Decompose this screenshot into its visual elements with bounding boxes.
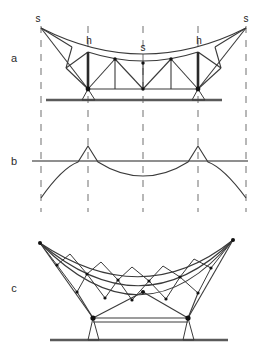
panel-a-structure: s h s h s [36, 13, 249, 100]
web-l-6 [132, 281, 149, 300]
label-anchor-left: s [36, 13, 41, 24]
leg-right-outer [188, 240, 233, 318]
node-c-u3 [116, 278, 119, 281]
backstay-left-strut-b [66, 52, 88, 68]
backstay-left-strut-c [66, 68, 88, 89]
backstay-left-lower [41, 28, 88, 89]
panel-label-a: a [11, 52, 18, 64]
node-top-1 [113, 57, 116, 60]
panel-b-moment-diagram [32, 146, 248, 198]
brace-left-to-apex [93, 292, 143, 318]
truss-diagonal-2 [115, 59, 143, 89]
leg-left-inner [77, 292, 93, 318]
leg-left-outer [40, 243, 93, 318]
web-l-5 [118, 280, 132, 300]
web-upper-band [40, 240, 233, 281]
backstay-left-upper [41, 28, 72, 47]
panel-label-b: b [11, 155, 17, 167]
web-u-6 [118, 267, 132, 280]
backstay-right-lower [198, 28, 246, 89]
label-mast-right: h [196, 35, 202, 46]
node-tip-c-left [38, 241, 42, 245]
web-u-8 [149, 266, 163, 281]
node-c-u2 [85, 272, 88, 275]
node-c-u5 [178, 275, 181, 278]
web-u-5 [101, 262, 118, 280]
backstay-right-strut-c [198, 68, 221, 89]
brace-right-to-apex [143, 292, 188, 318]
panel-c-cable-truss [38, 238, 235, 340]
figure-container: s h s h s [0, 0, 264, 361]
web-u-9 [163, 266, 180, 277]
backstay-right-upper [215, 28, 246, 47]
node-c-u1 [55, 263, 58, 266]
node-support-left [86, 87, 91, 92]
node-bottom-mid [141, 87, 144, 90]
node-c-u4 [147, 279, 150, 282]
support-bearing-c-right [183, 318, 194, 340]
node-c-l4 [164, 297, 167, 300]
support-bearing-c-left [88, 318, 99, 340]
node-tip-c-right [231, 238, 235, 242]
node-top-3 [169, 57, 172, 60]
node-c-l5 [196, 291, 199, 294]
node-support-right [196, 87, 201, 92]
label-midspan: s [141, 42, 146, 53]
chord-middle [40, 240, 233, 286]
node-c-l1 [75, 290, 78, 293]
node-c-l2 [103, 296, 106, 299]
label-mast-left: h [86, 35, 92, 46]
label-anchor-right: s [244, 13, 249, 24]
node-apex-c [141, 290, 145, 294]
truss-diagonal-4 [171, 59, 198, 89]
web-l-1 [57, 265, 77, 292]
web-u-7 [132, 267, 149, 281]
node-c-l3 [130, 298, 133, 301]
truss-diagonal-1 [88, 59, 115, 89]
node-support-c-left [90, 315, 95, 320]
panel-label-c: c [11, 282, 17, 294]
leg-right-inner [188, 293, 198, 318]
truss-diagonal-3 [143, 59, 171, 89]
node-c-u6 [209, 266, 212, 269]
node-top-mid [141, 61, 144, 64]
structural-diagram: s h s h s [0, 0, 264, 361]
chord-lower [40, 240, 233, 295]
node-support-c-right [185, 315, 190, 320]
